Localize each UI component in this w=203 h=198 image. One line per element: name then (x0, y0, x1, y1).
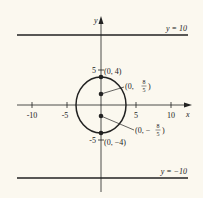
svg-text:8: 8 (143, 79, 146, 85)
x-tick-neg10: -10 (27, 111, 38, 120)
x-axis-label: x (185, 110, 190, 119)
y-axis-arrow-icon (99, 16, 104, 24)
y-tick-5: 5 (92, 66, 96, 75)
focus-top-label: (0, 8 5 ) (125, 79, 151, 93)
svg-text:): ) (148, 82, 151, 91)
x-tick-neg5: -5 (62, 111, 69, 120)
focus-bottom-label: (0, − 8 5 ) (135, 123, 165, 137)
svg-text:(0,: (0, (125, 82, 134, 91)
vertex-top-label: (0, 4) (104, 67, 122, 76)
svg-text:(0, −: (0, − (135, 126, 151, 135)
label-y-neg10: y = −10 (160, 167, 187, 176)
x-tick-5: 5 (134, 111, 138, 120)
focus-bottom-leader (101, 116, 134, 130)
vertex-bottom-point (99, 131, 104, 136)
vertex-top-point (99, 75, 104, 80)
label-y-10: y = 10 (165, 24, 187, 33)
x-axis-arrow-icon (184, 103, 192, 108)
svg-text:): ) (162, 126, 165, 135)
svg-text:5: 5 (157, 131, 160, 137)
svg-text:5: 5 (143, 87, 146, 93)
y-tick-neg5: -5 (89, 136, 96, 145)
focus-top-leader (101, 87, 124, 94)
x-tick-10: 10 (167, 111, 175, 120)
ellipse-diagram: y = 10 y = −10 y x -10 -5 5 10 5 -5 (0, … (0, 0, 203, 198)
vertex-bottom-label: (0, −4) (104, 138, 126, 147)
svg-text:8: 8 (157, 123, 160, 129)
y-axis-label: y (93, 16, 98, 25)
